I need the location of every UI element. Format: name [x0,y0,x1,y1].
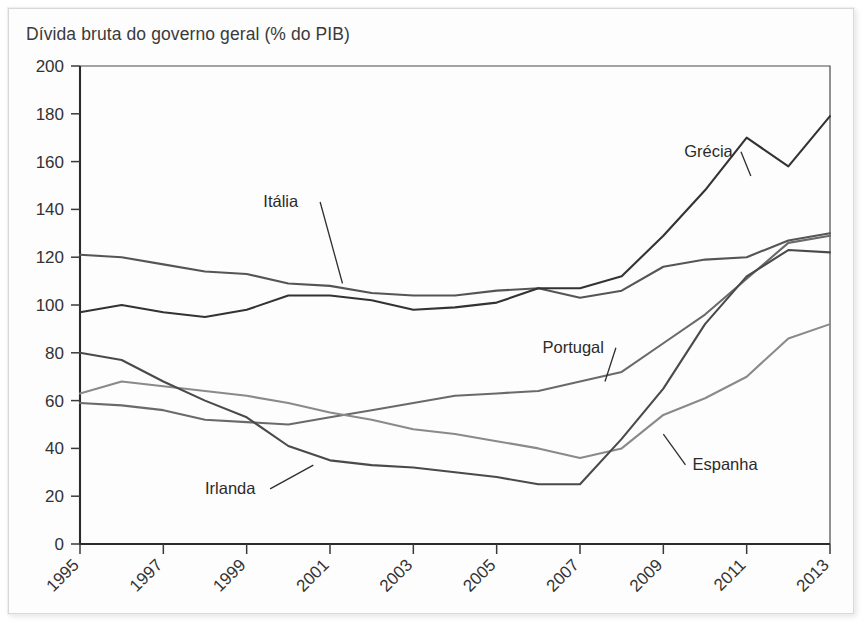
annotation-label-irlanda: Irlanda [205,479,256,497]
y-tick-label: 40 [45,439,64,458]
x-tick-label: 2003 [376,555,416,595]
y-tick-label: 120 [36,248,64,267]
annotation-leader-espanha [663,434,685,465]
annotation-label-portugal: Portugal [543,338,604,356]
annotation-leader-irlanda [270,465,313,489]
annotation-label-itlia: Itália [263,192,299,210]
y-tick-label: 100 [36,296,64,315]
y-tick-label: 200 [36,57,64,76]
y-tick-label: 20 [45,487,64,506]
x-tick-label: 2001 [293,555,333,595]
line-chart-plot: 0204060801001201401601802001995199719992… [0,0,862,622]
chart-axes: 0204060801001201401601802001995199719992… [36,57,833,596]
chart-annotations: ItáliaGréciaPortugalEspanhaIrlanda [205,142,758,497]
y-tick-label: 160 [36,153,64,172]
annotation-leader-portugal [605,348,616,382]
series-line-portugal [80,236,830,425]
y-tick-label: 60 [45,392,64,411]
x-tick-label: 1999 [209,555,249,595]
y-tick-label: 180 [36,105,64,124]
y-tick-label: 80 [45,344,64,363]
series-line-itlia [80,233,830,298]
x-tick-label: 2007 [543,555,583,595]
x-tick-label: 2013 [793,555,833,595]
annotation-leader-itlia [320,202,342,283]
chart-series [80,116,830,484]
annotation-label-grcia: Grécia [684,142,733,160]
x-tick-label: 1997 [126,555,166,595]
y-tick-label: 0 [55,535,64,554]
series-line-irlanda [80,250,830,484]
y-tick-label: 140 [36,200,64,219]
x-tick-label: 1995 [43,555,83,595]
x-tick-label: 2009 [626,555,666,595]
series-line-espanha [80,324,830,458]
x-tick-label: 2005 [459,555,499,595]
x-tick-label: 2011 [710,555,749,594]
chart-figure: Dívida bruta do governo geral (% do PIB)… [0,0,862,622]
annotation-label-espanha: Espanha [693,455,759,473]
annotation-leader-grcia [741,152,751,176]
